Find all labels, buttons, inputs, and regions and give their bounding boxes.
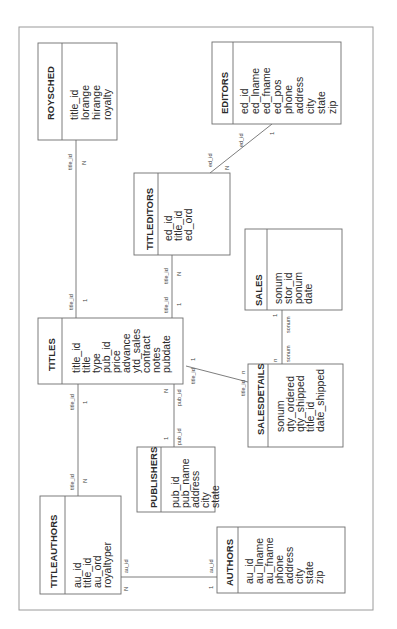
- rel-key-label: title_id: [163, 268, 169, 284]
- entity-title: ROYSCHED: [45, 66, 56, 120]
- entity-title: SALESDETAILS: [255, 363, 266, 435]
- rel-card-label: N: [81, 161, 87, 165]
- rel-key-label: pub_id: [176, 428, 182, 445]
- svg-text:date_shipped: date_shipped: [314, 369, 326, 432]
- rel-key-label: ed_id: [207, 154, 213, 167]
- svg-text:ed_ord: ed_ord: [182, 208, 194, 241]
- entity-titleauthors[interactable]: TITLEAUTHORS au_id title_id au_ord royal…: [40, 496, 121, 594]
- rel-card-label: 1: [272, 313, 278, 317]
- rel-card-label: n: [272, 359, 278, 362]
- er-diagram: ROYSCHED title_id lorange hirange royalt…: [0, 0, 397, 629]
- rel-card-label: 1: [269, 131, 275, 135]
- entity-title: TITLES: [46, 338, 57, 371]
- rel-key-label: sonum: [285, 316, 291, 333]
- rel-card-label: 1: [176, 302, 182, 306]
- entity-title: TITLEDITORS: [144, 188, 155, 250]
- rel-card-label: 1: [82, 298, 88, 302]
- rel-card-label: N: [176, 272, 182, 276]
- entity-titleditors[interactable]: TITLEDITORS ed_id title_id ed_ord: [134, 173, 230, 255]
- rel-editors-titleditors: [210, 124, 272, 173]
- entity-roysched[interactable]: ROYSCHED title_id lorange hirange royalt…: [38, 43, 117, 140]
- rel-key-label: ed_id: [238, 134, 244, 147]
- rel-card-label: 1: [208, 585, 214, 589]
- rel-key-label: title_id: [69, 474, 75, 490]
- entity-editors[interactable]: EDITORS ed_id ed_lname ed_fname ed_pos p…: [212, 42, 341, 124]
- svg-text:date: date: [302, 283, 314, 304]
- rel-card-label: 1: [82, 400, 88, 404]
- rel-key-label: title_id: [67, 154, 73, 170]
- rel-key-label: title_id: [240, 380, 246, 396]
- rel-key-label: title_id: [163, 297, 169, 313]
- entity-authors[interactable]: AUTHORS au_id au_lname au_fname phone ad…: [217, 527, 345, 593]
- entity-publishers[interactable]: PUBLISHERS pub_id pub_name address city …: [137, 447, 221, 512]
- rel-card-label: 1: [190, 357, 196, 361]
- svg-text:zip: zip: [313, 570, 325, 584]
- entity-title: PUBLISHERS: [148, 447, 159, 508]
- svg-text:state: state: [209, 485, 221, 508]
- entity-title: AUTHORS: [224, 539, 235, 586]
- rel-card-label: N: [163, 389, 169, 393]
- svg-text:zip: zip: [326, 100, 338, 114]
- rel-card-label: N: [123, 587, 129, 591]
- svg-text:royalty: royalty: [101, 88, 113, 120]
- rel-card-label: N: [224, 166, 230, 170]
- rel-key-label: title_id: [69, 394, 75, 410]
- rel-key-label: title_id: [68, 294, 74, 310]
- entity-title: EDITORS: [219, 72, 230, 114]
- rel-key-label: sonum: [285, 345, 291, 362]
- svg-text:pubdate: pubdate: [160, 335, 172, 373]
- entity-titles[interactable]: TITLES title_id title type pub_id price …: [38, 318, 183, 384]
- rel-key-label: title_id: [190, 368, 196, 384]
- entity-fields: title_id lorange hirange royalty: [68, 85, 113, 120]
- entity-sales[interactable]: SALES sonum stor_id ponum date: [245, 229, 342, 310]
- entity-salesdetails[interactable]: SALESDETAILS sonum qty_ordered qty_shipp…: [248, 363, 343, 447]
- svg-text:royaltyper: royaltyper: [101, 541, 113, 588]
- entity-title: SALES: [253, 274, 264, 306]
- rel-card-label: N: [82, 479, 88, 483]
- entity-title: TITLEAUTHORS: [48, 515, 59, 588]
- rel-key-label: pub_id: [176, 389, 182, 406]
- rel-key-label: au_id: [208, 560, 214, 573]
- rel-card-label: 1: [163, 436, 169, 440]
- rel-key-label: au_id: [123, 560, 129, 573]
- rel-card-label: n: [240, 371, 246, 374]
